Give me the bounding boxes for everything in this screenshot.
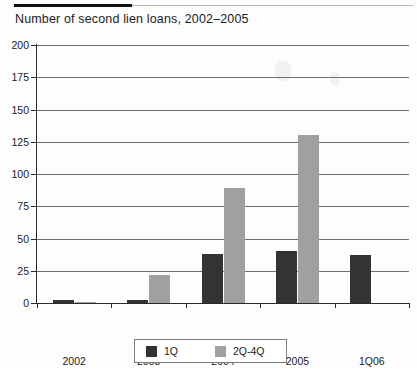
y-axis-label: 75 <box>17 200 29 212</box>
legend-entry-1q: 1Q <box>146 345 178 357</box>
y-axis-tick <box>31 142 37 143</box>
legend-label-2q4q: 2Q-4Q <box>233 345 265 357</box>
bar-1q-2005 <box>276 251 297 303</box>
y-axis-tick <box>31 174 37 175</box>
gridline <box>37 174 409 175</box>
bar-1q-2002 <box>53 300 74 303</box>
y-axis-label: 25 <box>17 265 29 277</box>
chart-figure: Number of second lien loans, 2002–2005 0… <box>0 0 417 368</box>
y-axis-label: 175 <box>11 71 29 83</box>
bar-2q-4q-2003 <box>149 275 170 303</box>
bar-2q-4q-2004 <box>224 188 245 303</box>
legend-swatch-2q4q-icon <box>215 346 226 357</box>
gridline <box>37 142 409 143</box>
y-axis-label: 50 <box>17 233 29 245</box>
y-axis-tick <box>31 303 37 304</box>
bar-2q-4q-2002 <box>75 302 96 303</box>
chart-legend: 1Q 2Q-4Q <box>134 339 287 363</box>
legend-swatch-1q-icon <box>146 346 157 357</box>
plot-area: 025507510012515017520020022003200420051Q… <box>37 45 409 303</box>
legend-entry-2q4q: 2Q-4Q <box>215 345 265 357</box>
plot-wrapper: 025507510012515017520020022003200420051Q… <box>0 0 417 368</box>
x-axis-label-1q06: 1Q06 <box>359 355 385 367</box>
y-axis-label: 100 <box>11 168 29 180</box>
x-axis-tick <box>186 303 187 308</box>
x-axis-tick <box>409 303 410 308</box>
y-axis-label: 200 <box>11 39 29 51</box>
bar-2q-4q-2005 <box>298 135 319 303</box>
x-axis-tick <box>37 303 38 308</box>
y-axis-label: 125 <box>11 136 29 148</box>
y-axis-label: 150 <box>11 104 29 116</box>
x-axis-tick <box>260 303 261 308</box>
x-axis-label-2005: 2005 <box>286 355 309 367</box>
y-axis-tick <box>31 239 37 240</box>
gridline <box>37 110 409 111</box>
x-axis-label-2002: 2002 <box>63 355 86 367</box>
gridline <box>37 303 409 304</box>
x-axis-tick <box>111 303 112 308</box>
y-axis-tick <box>31 77 37 78</box>
bar-1q-2003 <box>127 300 148 303</box>
bar-1q-2004 <box>202 254 223 303</box>
gridline <box>37 77 409 78</box>
x-axis-tick <box>335 303 336 308</box>
y-axis-label: 0 <box>23 297 29 309</box>
gridline <box>37 45 409 46</box>
legend-label-1q: 1Q <box>164 345 178 357</box>
bar-1q-1q06 <box>350 255 371 303</box>
y-axis-tick <box>31 206 37 207</box>
y-axis-tick <box>31 110 37 111</box>
y-axis-tick <box>31 45 37 46</box>
y-axis-tick <box>31 271 37 272</box>
